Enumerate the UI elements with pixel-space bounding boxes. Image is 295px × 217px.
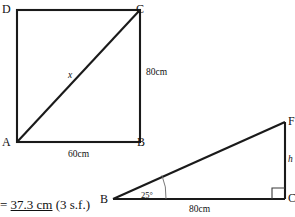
triangle-dimension-label-base: 80cm — [189, 205, 210, 215]
geometry-worksheet: D C A B 80cm 60cm x B F C 80cm h 25° = 3… — [0, 0, 295, 217]
triangle-vertex-label-F: F — [288, 115, 295, 127]
dimension-label-right-side: 80cm — [146, 68, 167, 78]
answer-value: 37.3 cm — [11, 197, 53, 212]
answer-equals-sign: = — [0, 197, 11, 212]
triangle-hypotenuse-BF — [113, 122, 285, 199]
rectangle-ABCD — [17, 10, 140, 142]
angle-label-25-degrees: 25° — [141, 191, 153, 200]
vertex-label-D: D — [2, 3, 11, 15]
right-angle-marker — [272, 188, 285, 199]
dimension-label-bottom-side: 60cm — [68, 150, 89, 160]
angle-arc-25-degrees — [162, 175, 166, 199]
answer-line: = 37.3 cm (3 s.f.) — [0, 198, 90, 211]
vertex-label-A: A — [2, 136, 11, 148]
vertex-label-C: C — [136, 3, 144, 15]
vertex-label-B: B — [137, 136, 145, 148]
triangle-variable-label-h: h — [288, 155, 293, 165]
diagonal-variable-label-x: x — [68, 71, 72, 81]
right-triangle-BCF — [113, 122, 285, 199]
triangle-vertex-label-C: C — [288, 192, 295, 204]
triangle-vertex-label-B: B — [100, 193, 108, 205]
geometry-canvas — [0, 0, 295, 217]
diagonal-line-AC — [18, 11, 139, 141]
answer-precision-note: (3 s.f.) — [52, 197, 90, 212]
